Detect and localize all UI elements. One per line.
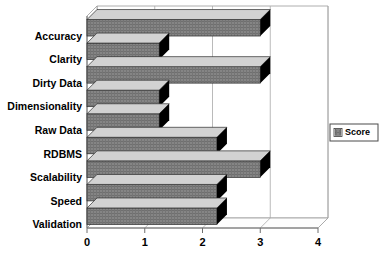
bar-top-face xyxy=(87,104,169,114)
bar-top-face xyxy=(87,127,227,137)
bar-top-face xyxy=(87,80,169,90)
bar-4 xyxy=(87,104,169,130)
bar-2 xyxy=(87,57,270,83)
x-tick-label: 2 xyxy=(199,236,205,248)
x-tick-label: 4 xyxy=(315,236,322,248)
chart-container: 01234 AccuracyClarityDirty DataDimension… xyxy=(0,0,384,260)
bar-top-face xyxy=(87,151,270,161)
bar-top-face xyxy=(87,10,270,20)
bar-top-face xyxy=(87,33,169,43)
legend: Score xyxy=(330,124,378,141)
bar-1 xyxy=(87,33,169,59)
x-tick-labels: 01234 xyxy=(84,228,322,248)
bar-8 xyxy=(87,198,227,224)
y-axis-category-label-1: Clarity xyxy=(49,53,82,65)
bar-top-face xyxy=(87,57,270,67)
y-axis-category-label-8: Validation xyxy=(32,218,82,230)
y-axis-category-label-3: Dimensionality xyxy=(7,100,82,112)
bar-chart-3d: 01234 AccuracyClarityDirty DataDimension… xyxy=(0,0,384,260)
bar-front-face xyxy=(87,208,217,224)
y-axis-category-labels: AccuracyClarityDirty DataDimensionalityR… xyxy=(7,30,82,230)
bar-7 xyxy=(87,174,227,200)
bar-0 xyxy=(87,10,270,36)
y-axis-category-label-7: Speed xyxy=(50,195,82,207)
y-axis-category-label-5: RDBMS xyxy=(44,148,83,160)
bar-3 xyxy=(87,80,169,106)
bar-top-face xyxy=(87,174,227,184)
legend-swatch-fill-icon xyxy=(335,130,341,136)
bar-5 xyxy=(87,127,227,153)
y-axis-category-label-4: Raw Data xyxy=(35,124,82,136)
x-tick-label: 0 xyxy=(84,236,90,248)
x-tick-label: 1 xyxy=(142,236,148,248)
legend-entry-label: Score xyxy=(345,127,370,137)
y-axis-category-label-0: Accuracy xyxy=(35,30,82,42)
x-tick-label: 3 xyxy=(257,236,263,248)
bar-top-face xyxy=(87,198,227,208)
y-axis-category-label-6: Scalability xyxy=(30,171,82,183)
y-axis-category-label-2: Dirty Data xyxy=(32,77,82,89)
bar-6 xyxy=(87,151,270,177)
